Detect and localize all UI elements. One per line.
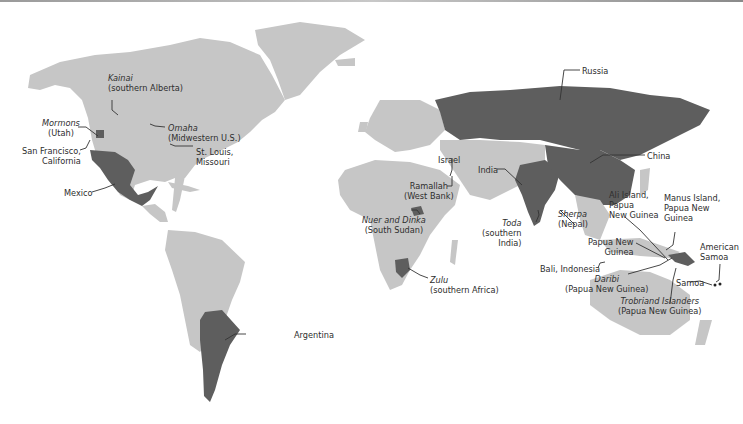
label-png-line1: Papua New (588, 237, 633, 247)
label-kainai: Kainai (southern Alberta) (108, 73, 183, 93)
label-trobriand-place: (Papua New Guinea) (618, 306, 702, 316)
label-israel: Israel (438, 155, 460, 165)
label-daribi-place: (Papua New Guinea) (565, 284, 649, 294)
label-manus-line1: Manus Island, (664, 193, 720, 203)
label-manus-island: Manus Island, Papua New Guinea (664, 193, 720, 223)
label-kainai-group: Kainai (108, 73, 133, 83)
label-manus-line2: Papua New (664, 203, 709, 213)
label-omaha-place: (Midwestern U.S.) (168, 133, 241, 143)
label-sherpa: Sherpa (Nepal) (558, 209, 588, 229)
label-manus-line3: Guinea (664, 213, 693, 223)
label-zulu-place: (southern Africa) (430, 285, 499, 295)
label-ali-island: Ali Island, Papua New Guinea (609, 190, 659, 220)
label-daribi: Daribi (Papua New Guinea) (565, 274, 649, 294)
label-stlouis-line1: St. Louis, (196, 147, 233, 157)
label-zulu-group: Zulu (430, 275, 448, 285)
label-omaha-group: Omaha (168, 123, 198, 133)
label-sanfran-line2: California (42, 156, 81, 166)
label-nuer-line1: Nuer and Dinka (362, 215, 426, 225)
label-sherpa-place: (Nepal) (558, 219, 588, 229)
label-nuer-dinka: Nuer and Dinka (South Sudan) (362, 215, 426, 235)
utah (96, 130, 104, 138)
label-st-louis: St. Louis, Missouri (196, 147, 233, 167)
label-papua-new-guinea: Papua New Guinea (588, 237, 633, 257)
label-san-francisco: San Francisco, California (22, 146, 81, 166)
argentina (200, 310, 240, 402)
label-trobriand-group: Trobriand Islanders (620, 296, 699, 306)
label-mormons-group: Mormons (42, 118, 80, 128)
label-russia: Russia (582, 66, 608, 76)
label-zulu: Zulu (southern Africa) (430, 275, 499, 295)
label-kainai-place: (southern Alberta) (108, 83, 183, 93)
label-trobriand: Trobriand Islanders (Papua New Guinea) (618, 296, 702, 316)
label-samoa: Samoa (676, 278, 704, 288)
label-toda-group: Toda (502, 218, 521, 228)
label-sanfran-line1: San Francisco, (22, 146, 81, 156)
samoa-dot (714, 284, 717, 287)
label-daribi-group: Daribi (595, 274, 619, 284)
label-toda: Toda (southern India) (482, 218, 522, 248)
label-mormons-place: (Utah) (48, 128, 74, 138)
label-india: India (478, 165, 498, 175)
label-ali-line3: New Guinea (609, 210, 659, 220)
label-ali-line2: Papua (609, 200, 634, 210)
label-china: China (647, 151, 670, 161)
label-argentina: Argentina (294, 330, 334, 340)
label-sherpa-group: Sherpa (558, 209, 587, 219)
american-samoa-dot (719, 283, 722, 286)
label-mexico: Mexico (64, 188, 93, 198)
label-mormons: Mormons (Utah) (42, 118, 80, 138)
label-toda-line2: (southern (482, 228, 522, 238)
label-omaha: Omaha (Midwestern U.S.) (168, 123, 241, 143)
label-ramallah-line2: (West Bank) (404, 191, 454, 201)
label-ramallah: Ramallah (West Bank) (404, 181, 454, 201)
label-nuer-line2: (South Sudan) (365, 225, 424, 235)
label-stlouis-line2: Missouri (196, 157, 230, 167)
label-ali-line1: Ali Island, (609, 190, 649, 200)
label-png-line2: Guinea (604, 247, 633, 257)
label-amsamoa-line2: Samoa (700, 252, 728, 262)
label-american-samoa: American Samoa (700, 242, 739, 262)
label-ramallah-line1: Ramallah (410, 181, 448, 191)
label-bali: Bali, Indonesia (540, 264, 600, 274)
label-amsamoa-line1: American (700, 242, 739, 252)
label-toda-line3: India) (498, 238, 521, 248)
europe (365, 100, 445, 152)
